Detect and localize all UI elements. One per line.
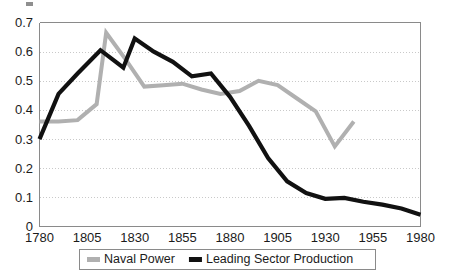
y-tick-label: 0.5 [15, 73, 33, 88]
y-tick-label: 0.4 [15, 102, 33, 117]
y-tick-label: 0.7 [15, 15, 33, 30]
chart-figure: 00.10.20.30.40.50.60.7 17801805183018551… [0, 0, 450, 273]
x-tick-label: 1905 [263, 230, 292, 245]
y-tick-label: 0.2 [15, 161, 33, 176]
x-tick-label: 1805 [73, 230, 102, 245]
legend-label: Naval Power [104, 252, 175, 266]
x-tick-label: 1880 [216, 230, 245, 245]
x-tick-label: 1830 [120, 230, 149, 245]
x-tick-label: 1930 [311, 230, 340, 245]
x-axis-tick-labels: 178018051830185518801905193019551980 [25, 230, 435, 245]
crop-artifact-mark [26, 2, 33, 6]
x-tick-label: 1855 [168, 230, 197, 245]
y-tick-label: 0.3 [15, 132, 33, 147]
legend-swatch [189, 257, 202, 262]
legend-swatch [87, 257, 100, 262]
legend-label: Leading Sector Production [206, 252, 353, 266]
x-tick-label: 1955 [358, 230, 387, 245]
line-chart: 00.10.20.30.40.50.60.7 17801805183018551… [0, 0, 450, 273]
y-tick-label: 0.6 [15, 44, 33, 59]
chart-legend: Naval PowerLeading Sector Production [80, 250, 376, 270]
y-tick-label: 0.1 [15, 190, 33, 205]
x-tick-label: 1780 [25, 230, 54, 245]
x-tick-label: 1980 [406, 230, 435, 245]
